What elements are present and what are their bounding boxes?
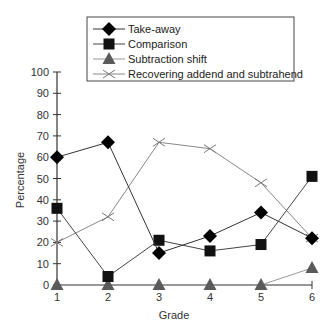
x-tick-label: 2 bbox=[105, 291, 111, 303]
y-axis-label: Percentage bbox=[14, 152, 26, 208]
take-away-marker bbox=[152, 246, 166, 260]
y-tick-label: 0 bbox=[43, 279, 49, 291]
legend-item-comparison: Comparison bbox=[93, 38, 187, 50]
legend: Take-awayComparisonSubtraction shiftReco… bbox=[87, 17, 303, 81]
series-subtraction-shift bbox=[51, 261, 319, 290]
series-comparison bbox=[52, 171, 318, 282]
series-line bbox=[57, 268, 312, 285]
y-tick-label: 80 bbox=[37, 109, 49, 121]
take-away-marker bbox=[203, 229, 217, 243]
series-line bbox=[57, 176, 312, 276]
y-tick-label: 60 bbox=[37, 151, 49, 163]
subtraction-shift-marker bbox=[204, 278, 217, 290]
series-line bbox=[57, 142, 312, 253]
series-recovering-addend-and-subtrahend bbox=[51, 138, 318, 246]
y-tick-label: 30 bbox=[37, 215, 49, 227]
y-tick-label: 90 bbox=[37, 87, 49, 99]
series-lines bbox=[50, 135, 319, 290]
series-take-away bbox=[50, 135, 319, 260]
take-away-marker bbox=[254, 206, 268, 220]
take-away-marker bbox=[101, 135, 115, 149]
x-axis-label: Grade bbox=[159, 309, 190, 321]
take-away-marker bbox=[50, 150, 64, 164]
comparison-marker bbox=[52, 203, 63, 214]
y-tick-label: 70 bbox=[37, 130, 49, 142]
subtraction-shift-marker bbox=[306, 261, 319, 273]
x-tick-label: 5 bbox=[258, 291, 264, 303]
comparison-marker bbox=[256, 239, 267, 250]
y-tick-label: 10 bbox=[37, 258, 49, 270]
axes: 0102030405060708090100123456 bbox=[31, 66, 315, 303]
x-tick-label: 1 bbox=[54, 291, 60, 303]
x-tick-label: 4 bbox=[207, 291, 213, 303]
legend-comparison-marker bbox=[104, 39, 115, 50]
comparison-marker bbox=[307, 171, 318, 182]
subtraction-shift-marker bbox=[153, 278, 166, 290]
comparison-marker bbox=[103, 271, 114, 282]
legend-label: Take-away bbox=[128, 23, 181, 35]
comparison-marker bbox=[205, 245, 216, 256]
legend-label: Recovering addend and subtrahend bbox=[128, 68, 303, 80]
subtraction-shift-marker bbox=[51, 278, 64, 290]
line-chart: 0102030405060708090100123456 Take-awayCo… bbox=[0, 0, 336, 331]
legend-label: Subtraction shift bbox=[128, 53, 207, 65]
y-tick-label: 20 bbox=[37, 236, 49, 248]
y-tick-label: 40 bbox=[37, 194, 49, 206]
x-tick-label: 6 bbox=[309, 291, 315, 303]
y-tick-label: 100 bbox=[31, 66, 49, 78]
legend-label: Comparison bbox=[128, 38, 187, 50]
x-tick-label: 3 bbox=[156, 291, 162, 303]
y-tick-label: 50 bbox=[37, 173, 49, 185]
